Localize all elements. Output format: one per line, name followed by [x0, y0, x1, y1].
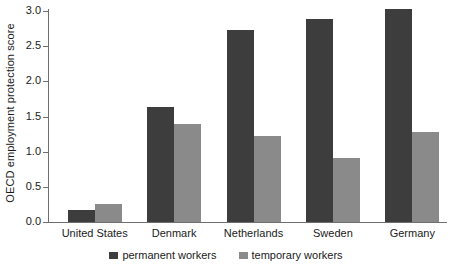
y-axis-tick-label: 0.0 — [15, 216, 41, 227]
plot-area — [49, 11, 446, 222]
y-axis-tick-label: 1.0 — [15, 146, 41, 157]
bar-temporary-workers-united-states — [95, 204, 122, 222]
bar-temporary-workers-sweden — [333, 158, 360, 222]
bar-permanent-workers-netherlands — [227, 30, 254, 222]
bar-group — [227, 11, 281, 222]
bar-temporary-workers-denmark — [174, 124, 201, 222]
legend-label: temporary workers — [252, 249, 343, 261]
y-axis-tick-label: 3.0 — [15, 5, 41, 16]
y-axis-tick-label: 2.0 — [15, 75, 41, 86]
legend-swatch-icon — [239, 252, 248, 259]
y-axis-tick — [43, 222, 49, 223]
bar-permanent-workers-united-states — [68, 210, 95, 222]
y-axis-tick-label: 2.5 — [15, 40, 41, 51]
y-axis-tick-label: 0.5 — [15, 181, 41, 192]
bar-temporary-workers-germany — [412, 132, 439, 222]
bar-group — [68, 11, 122, 222]
bar-permanent-workers-sweden — [306, 19, 333, 222]
legend-swatch-icon — [109, 252, 118, 259]
legend-entry-permanent-workers: permanent workers — [109, 249, 216, 261]
legend-label: permanent workers — [122, 249, 216, 261]
bar-group — [147, 11, 201, 222]
bar-chart: OECD employment protection score 0.00.51… — [0, 0, 452, 269]
bar-permanent-workers-germany — [385, 9, 412, 222]
x-axis-label-germany: Germany — [362, 227, 452, 239]
bar-group — [385, 11, 439, 222]
y-axis-tick-label: 1.5 — [15, 111, 41, 122]
legend-entry-temporary-workers: temporary workers — [239, 249, 343, 261]
x-axis-line — [49, 222, 447, 223]
bar-group — [306, 11, 360, 222]
bar-temporary-workers-netherlands — [254, 136, 281, 222]
chart-legend: permanent workerstemporary workers — [0, 249, 452, 261]
bar-permanent-workers-denmark — [147, 107, 174, 222]
